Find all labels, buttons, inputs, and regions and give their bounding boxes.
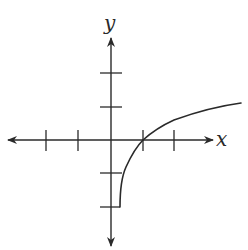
function-graph: x y [0,0,248,250]
y-axis-label: y [103,11,116,35]
x-axis-label: x [216,127,227,151]
function-curve [120,103,241,207]
